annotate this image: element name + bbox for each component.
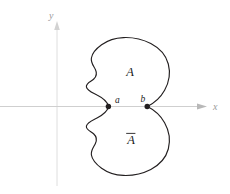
- up-arrow-icon: [54, 21, 60, 30]
- point-label-a: a: [115, 95, 120, 105]
- x-axis-label: x: [212, 101, 218, 112]
- right-arrow-icon: [197, 104, 207, 110]
- y-axis-group: [54, 21, 60, 186]
- lower-region-label-group: A: [126, 133, 135, 147]
- y-axis-label: y: [48, 10, 54, 21]
- point-label-b: b: [141, 94, 146, 104]
- x-axis-group: [0, 104, 207, 110]
- upper-region-label: A: [125, 65, 134, 79]
- cusp-point-a: [106, 104, 111, 109]
- complex-plane-figure: A A a b y x: [0, 0, 230, 194]
- lower-region-label: A: [126, 133, 135, 147]
- figure-container: A A a b y x: [0, 0, 230, 194]
- cusp-point-b: [145, 104, 150, 109]
